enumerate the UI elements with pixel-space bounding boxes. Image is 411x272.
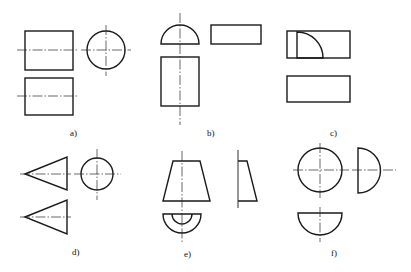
side-view-trapezoid (238, 161, 257, 201)
panel-label-d: d) (72, 247, 80, 257)
panel-c: c) (287, 31, 350, 138)
front-view-triangle (25, 157, 67, 190)
panel-label-c: c) (330, 128, 337, 138)
panel-e: e) (163, 150, 257, 259)
side-view-semicircle (358, 148, 381, 193)
front-view-trapezoid (163, 161, 210, 201)
panel-label-e: e) (184, 249, 191, 259)
top-view-rectangle (287, 76, 350, 102)
panel-d: d) (20, 149, 121, 257)
side-view-rectangle (211, 25, 261, 44)
front-view-rectangle (25, 31, 73, 70)
panel-label-b: b) (207, 128, 215, 138)
front-view-circle (298, 148, 342, 192)
panel-label-a: a) (70, 128, 77, 138)
panel-a: a) (17, 25, 131, 138)
panel-f: f) (293, 143, 396, 258)
panel-label-f: f) (331, 248, 337, 258)
top-view-rectangle (25, 78, 73, 115)
projection-diagram: a) b) c) d) e) (0, 0, 411, 272)
side-view-quarter-circle (297, 32, 323, 58)
panel-b: b) (161, 13, 261, 138)
